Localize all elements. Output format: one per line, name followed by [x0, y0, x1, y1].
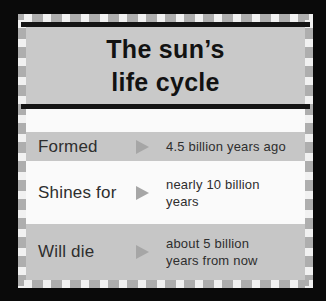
right-arrow-icon: [136, 186, 149, 200]
right-arrow-icon: [136, 245, 149, 259]
row-value: nearly 10 billion years: [166, 176, 299, 210]
table-row: Formed 4.5 billion years ago: [26, 132, 305, 161]
row-label: Shines for: [38, 183, 128, 203]
card-dashed-border-bottom: [18, 280, 313, 288]
row-label: Formed: [38, 137, 128, 157]
background: The sun’s life cycle Formed 4.5 billion …: [0, 0, 326, 301]
title-gap: [26, 109, 305, 132]
card-dashed-border-left: [18, 14, 26, 288]
life-cycle-table: Formed 4.5 billion years ago Shines for …: [26, 132, 305, 280]
card-dashed-border-right: [305, 14, 313, 288]
sun-life-cycle-card: The sun’s life cycle Formed 4.5 billion …: [18, 14, 313, 288]
card-dashed-border-top: [18, 14, 313, 22]
card-body: The sun’s life cycle Formed 4.5 billion …: [26, 22, 305, 280]
title-line-2: life cycle: [111, 66, 220, 99]
table-row: Shines for nearly 10 billion years: [26, 161, 305, 224]
right-arrow-icon: [136, 140, 149, 154]
title-line-1: The sun’s: [106, 33, 224, 66]
row-label: Will die: [38, 242, 128, 262]
row-value: 4.5 billion years ago: [166, 138, 299, 155]
table-row: Will die about 5 billion years from now: [26, 224, 305, 280]
row-value: about 5 billion years from now: [166, 235, 299, 269]
card-title: The sun’s life cycle: [26, 27, 305, 104]
